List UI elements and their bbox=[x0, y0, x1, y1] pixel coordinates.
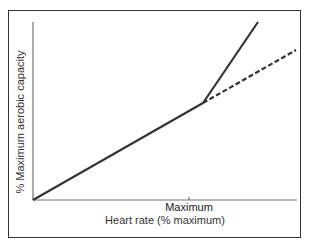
y-axis-label: % Maximum aerobic capacity bbox=[14, 50, 26, 193]
x-axis-label: Heart rate (% maximum) bbox=[105, 214, 225, 226]
dashed-extrapolation bbox=[203, 50, 296, 103]
linear-segment bbox=[33, 103, 203, 200]
steep-segment bbox=[203, 22, 258, 103]
chart-plot bbox=[0, 0, 310, 248]
x-tick-label-maximum: Maximum bbox=[165, 201, 213, 213]
